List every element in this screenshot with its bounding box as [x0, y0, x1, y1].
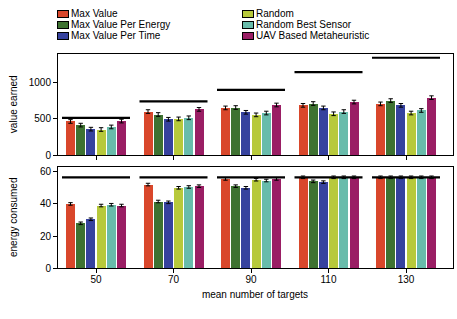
- bar: [309, 104, 318, 156]
- x-tick-label: 50: [90, 274, 102, 285]
- bar: [427, 177, 436, 268]
- bar: [309, 181, 318, 268]
- bar: [376, 177, 385, 268]
- y-axis-label: energy consumed: [8, 178, 19, 258]
- y-tick-label: 1000: [29, 77, 52, 88]
- bar: [350, 102, 359, 155]
- bar: [154, 202, 163, 269]
- x-tick-label: 70: [168, 274, 180, 285]
- y-axis-label: value earned: [8, 75, 19, 133]
- bar: [76, 223, 85, 268]
- y-tick-label: 0: [45, 150, 51, 161]
- bar: [107, 127, 116, 156]
- bar: [231, 186, 240, 268]
- bar: [66, 204, 75, 269]
- x-tick-label: 130: [398, 274, 415, 285]
- bar: [350, 177, 359, 268]
- bar: [417, 110, 426, 155]
- bar: [195, 186, 204, 268]
- bar: [107, 205, 116, 269]
- bar: [117, 121, 126, 155]
- bar: [339, 177, 348, 268]
- bar: [144, 112, 153, 156]
- bar: [396, 177, 405, 268]
- y-tick-label: 20: [40, 231, 52, 242]
- chart-canvas: 05001000value earned5070901101300204060e…: [0, 0, 457, 319]
- bar: [339, 112, 348, 156]
- y-tick-label: 0: [45, 263, 51, 274]
- bar: [376, 104, 385, 156]
- bar: [417, 177, 426, 268]
- bar: [86, 129, 95, 155]
- bar: [164, 202, 173, 268]
- bar: [329, 114, 338, 156]
- bar: [221, 179, 230, 269]
- bar: [221, 108, 230, 156]
- bar: [117, 206, 126, 269]
- bar: [272, 179, 281, 269]
- bar: [262, 181, 271, 269]
- x-axis-label: mean number of targets: [202, 289, 308, 300]
- bar: [407, 177, 416, 268]
- bar: [299, 177, 308, 268]
- bar: [299, 105, 308, 155]
- bar: [241, 188, 250, 269]
- x-tick-label: 90: [245, 274, 257, 285]
- bar: [319, 108, 328, 156]
- bar: [86, 219, 95, 268]
- bar: [231, 108, 240, 156]
- bar: [154, 115, 163, 156]
- y-tick-label: 40: [40, 198, 52, 209]
- bar: [164, 119, 173, 155]
- bar: [252, 180, 261, 269]
- bar: [252, 115, 261, 156]
- bar: [396, 105, 405, 155]
- bar: [174, 119, 183, 156]
- bar: [386, 101, 395, 156]
- bar: [184, 118, 193, 156]
- bar: [174, 188, 183, 269]
- bar: [144, 185, 153, 269]
- bar: [195, 109, 204, 155]
- bar: [329, 177, 338, 268]
- bar: [66, 121, 75, 155]
- bar: [262, 113, 271, 155]
- bar: [427, 98, 436, 156]
- bar: [319, 182, 328, 268]
- bar: [407, 113, 416, 155]
- y-tick-label: 60: [40, 166, 52, 177]
- bar: [184, 187, 193, 269]
- figure: Max Value Max Value Per Energy Max Value…: [0, 0, 457, 319]
- bar: [76, 125, 85, 155]
- bar: [272, 105, 281, 156]
- bar: [241, 112, 250, 155]
- x-tick-label: 110: [321, 274, 337, 285]
- y-tick-label: 500: [34, 113, 51, 124]
- bar: [97, 130, 106, 156]
- bar: [386, 177, 395, 268]
- bar: [97, 206, 106, 269]
